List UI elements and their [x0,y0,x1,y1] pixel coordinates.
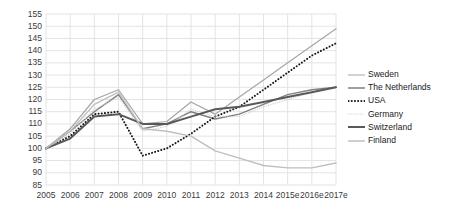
y-axis-tick-label: 125 [2,83,42,91]
y-axis-tick-label: 90 [2,168,42,176]
y-axis-tick-label: 135 [2,58,42,66]
x-axis-tick-label: 2009 [133,190,152,200]
x-axis-tick-label: 2013 [230,190,249,200]
x-axis-tick-label: 2012 [206,190,225,200]
x-axis: 2005200620072008200920102011201220132014… [46,188,336,206]
x-axis-tick-label: 2014 [254,190,273,200]
legend-label: Sweden [368,70,399,79]
legend-label: Switzerland [368,123,412,132]
x-axis-tick-label: 2017e [324,190,348,200]
y-axis-tick-label: 85 [2,181,42,189]
legend-label: Finland [368,136,396,145]
legend-label: The Netherlands [368,83,431,92]
legend-swatch-usa [348,96,365,106]
x-axis-tick-label: 2007 [85,190,104,200]
y-axis-tick-label: 120 [2,95,42,103]
legend-swatch-finland [348,136,365,146]
y-axis-tick-label: 100 [2,144,42,152]
x-axis-tick-label: 2005 [37,190,56,200]
legend-swatch-germany [348,109,365,119]
legend-item-germany[interactable]: Germany [348,108,452,121]
legend-item-finland[interactable]: Finland [348,134,452,147]
series-lines [46,14,336,185]
x-axis-tick-label: 2006 [61,190,80,200]
y-axis-tick-label: 155 [2,10,42,18]
legend-item-the-netherlands[interactable]: The Netherlands [348,81,452,94]
chart-legend: SwedenThe NetherlandsUSAGermanySwitzerla… [348,68,452,147]
x-axis-tick-label: 2011 [182,190,200,200]
y-axis-tick-label: 105 [2,132,42,140]
y-axis-tick-label: 140 [2,46,42,54]
x-axis-tick-label: 2016e [300,190,324,200]
y-axis-tick-label: 115 [2,107,42,115]
x-axis-tick-label: 2015e [276,190,300,200]
legend-swatch-the-netherlands [348,83,365,93]
y-axis-tick-label: 110 [2,119,42,127]
legend-item-sweden[interactable]: Sweden [348,68,452,81]
y-axis-tick-label: 95 [2,156,42,164]
plot-area [46,14,336,185]
legend-swatch-sweden [348,70,365,80]
y-axis-tick-label: 150 [2,22,42,30]
y-axis: 1551501451401351301251201151101051009590… [0,0,42,217]
legend-item-switzerland[interactable]: Switzerland [348,121,452,134]
legend-label: USA [368,96,385,105]
y-axis-tick-label: 130 [2,71,42,79]
legend-item-usa[interactable]: USA [348,94,452,107]
x-axis-tick-label: 2008 [109,190,128,200]
x-axis-tick-label: 2010 [157,190,176,200]
legend-label: Germany [368,110,403,119]
y-axis-tick-label: 145 [2,34,42,42]
legend-swatch-switzerland [348,122,365,132]
line-chart: 1551501451401351301251201151101051009590… [0,0,453,217]
series-line-finland [46,92,336,168]
series-line-sweden [46,29,336,149]
